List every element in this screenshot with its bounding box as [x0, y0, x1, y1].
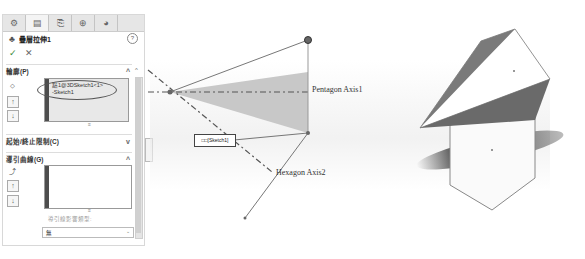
center-point: [491, 149, 493, 151]
point-icon: [244, 217, 247, 220]
point-icon[interactable]: [306, 131, 310, 135]
point-icon[interactable]: [168, 90, 173, 95]
graphics-viewport[interactable]: [0, 0, 585, 259]
center-point: [513, 70, 515, 72]
sketch-callout[interactable]: □□[Sketch1]: [194, 134, 236, 147]
pentagon-axis-label: Pentagon Axis1: [312, 85, 362, 94]
hexagon-axis-label: Hexagon Axis2: [276, 168, 326, 177]
handle-point-icon[interactable]: [305, 37, 312, 44]
